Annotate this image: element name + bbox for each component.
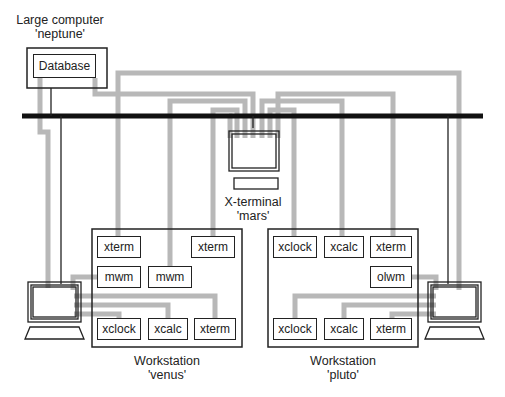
venus-xclock: xclock <box>97 318 141 340</box>
pluto-olwm: olwm <box>370 266 412 288</box>
pluto-xclock-2: xclock <box>273 318 317 340</box>
pluto-xterm-2: xterm <box>370 318 412 340</box>
pluto-display-icon <box>425 282 484 339</box>
venus-caption: Workstation 'venus' <box>127 354 207 382</box>
mars-caption: X-terminal 'mars' <box>213 195 293 223</box>
neptune-caption: Large computer 'neptune' <box>10 13 110 41</box>
venus-mwm-2: mwm <box>148 266 192 288</box>
venus-xterm-3: xterm <box>194 318 236 340</box>
pluto-xcalc-1: xcalc <box>324 236 364 258</box>
pluto-xterm-1: xterm <box>370 236 412 258</box>
venus-xterm-1: xterm <box>97 236 141 258</box>
venus-xterm-2: xterm <box>191 236 235 258</box>
pluto-xcalc-2: xcalc <box>324 318 364 340</box>
venus-display-icon <box>25 282 84 339</box>
venus-xcalc: xcalc <box>148 318 188 340</box>
pluto-xclock-1: xclock <box>273 236 317 258</box>
venus-mwm-1: mwm <box>97 266 141 288</box>
database-app: Database <box>33 54 96 78</box>
pluto-caption: Workstation 'pluto' <box>303 354 383 382</box>
mars-xterminal-icon <box>229 131 279 189</box>
